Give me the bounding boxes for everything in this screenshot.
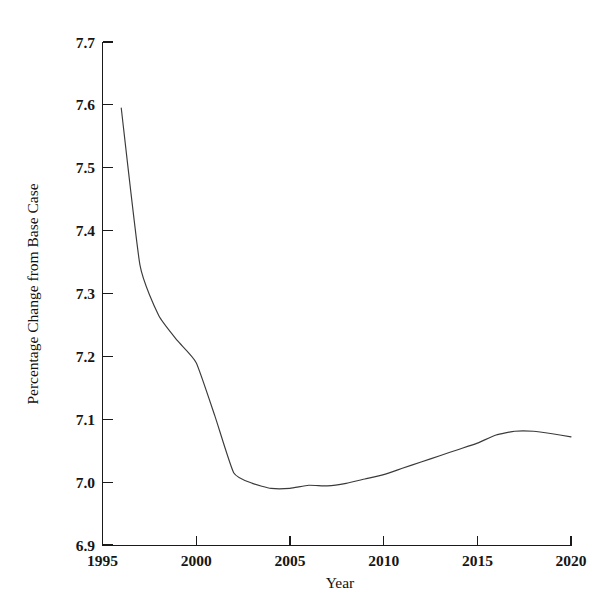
y-tick-label: 7.3 [76,285,96,302]
y-tick-label: 7.6 [76,96,96,113]
x-axis-title: Year [326,574,355,591]
line-chart: 7.7 7.6 7.5 7.4 7.3 7.2 7.1 7.0 6.9 1995… [0,0,608,606]
y-axis-title: Percentage Change from Base Case [24,183,41,404]
y-axis-tick-labels: 7.7 7.6 7.5 7.4 7.3 7.2 7.1 7.0 6.9 [76,34,96,554]
x-tick-label: 2015 [462,552,493,569]
x-tick-label: 2020 [556,552,587,569]
y-tick-label: 7.1 [76,411,95,428]
y-tick-label: 7.7 [76,34,96,51]
x-tick-label: 2000 [181,552,212,569]
data-series-line [121,108,571,489]
y-tick-label: 7.4 [76,222,96,239]
x-tick-label: 2005 [275,552,306,569]
axis-spines [103,42,572,546]
x-axis-ticks [103,536,572,546]
y-tick-label: 7.5 [76,159,96,176]
x-tick-label: 2010 [368,552,399,569]
y-tick-label: 7.0 [76,474,96,491]
x-axis-tick-labels: 1995 2000 2005 2010 2015 2020 [87,552,587,569]
y-axis-ticks [103,42,113,545]
x-tick-label: 1995 [87,552,118,569]
chart-figure: 7.7 7.6 7.5 7.4 7.3 7.2 7.1 7.0 6.9 1995… [0,0,608,606]
y-tick-label: 7.2 [76,348,96,365]
